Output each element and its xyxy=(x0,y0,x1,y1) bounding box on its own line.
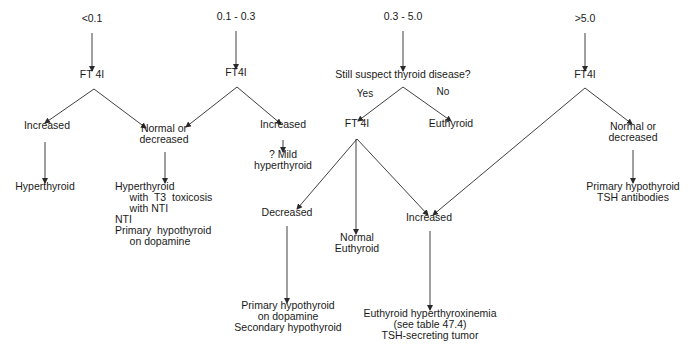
node-text-line: Secondary hypothyroid xyxy=(234,322,341,333)
node-c-ft4i: FT 4I xyxy=(345,118,369,129)
node-text-line: FT4I xyxy=(225,67,247,78)
node-text-line: hyperthyroid xyxy=(254,160,312,171)
node-text-line: FT 4I xyxy=(345,118,369,129)
node-tsh-01-03: 0.1 - 0.3 xyxy=(217,11,256,22)
node-suspect: Still suspect thyroid disease? xyxy=(335,69,470,80)
node-a-increased: Increased xyxy=(24,120,70,131)
node-text-line: 0.1 - 0.3 xyxy=(217,11,256,22)
arrow-edge xyxy=(433,88,585,215)
connector-lines xyxy=(0,0,692,349)
node-no-label: No xyxy=(437,86,450,97)
arrow-edge xyxy=(357,139,428,215)
node-text-line: Increased xyxy=(24,120,70,131)
node-text-line: FT4I xyxy=(574,69,596,80)
node-text-line: TSH antibodies xyxy=(586,192,679,203)
node-text-line: Euthyroid xyxy=(335,243,379,254)
node-text-line: >5.0 xyxy=(575,13,596,24)
node-text-line: FT 4I xyxy=(80,69,104,80)
node-b-increased: Increased xyxy=(260,119,306,130)
node-c-dec-result: Primary hypothyroidon dopamineSecondary … xyxy=(234,300,341,333)
node-text-line: 0.3 - 5.0 xyxy=(384,11,423,22)
node-text-line: on dopamine xyxy=(115,236,212,247)
node-text-line: TSH-secreting tumor xyxy=(363,330,496,341)
node-text-line: <0.1 xyxy=(82,13,103,24)
node-a-normal: Normal ordecreased xyxy=(139,123,188,145)
node-c-increased: Increased xyxy=(406,212,452,223)
node-text-line: Yes xyxy=(357,88,373,99)
node-c-decreased: Decreased xyxy=(262,207,313,218)
node-text-line: Hyperthyroid xyxy=(15,181,75,192)
node-b-mild: ? Mildhyperthyroid xyxy=(254,149,312,171)
node-text-line: Increased xyxy=(260,119,306,130)
node-tsh-gt50: >5.0 xyxy=(575,13,596,24)
node-tsh-lt01: <0.1 xyxy=(82,13,103,24)
node-text-line: No xyxy=(437,86,450,97)
arrow-edge xyxy=(94,89,146,128)
node-c-normal: NormalEuthyroid xyxy=(335,232,379,254)
arrow-edge xyxy=(186,87,237,127)
arrow-edge xyxy=(585,88,632,124)
node-text-line: Still suspect thyroid disease? xyxy=(335,69,470,80)
node-d-result: Primary hypothyroidTSH antibodies xyxy=(586,181,679,203)
node-text-line: Decreased xyxy=(262,207,313,218)
node-text-line: Euthyroid xyxy=(429,118,473,129)
node-c-euthyroid: Euthyroid xyxy=(429,118,473,129)
node-yes-label: Yes xyxy=(357,88,373,99)
node-ft4i-a: FT 4I xyxy=(80,69,104,80)
node-tsh-03-50: 0.3 - 5.0 xyxy=(384,11,423,22)
arrow-edge xyxy=(45,89,94,123)
node-d-normal: Normal ordecreased xyxy=(608,121,657,143)
node-a-hyper: Hyperthyroid xyxy=(15,181,75,192)
node-a-list: Hyperthyroid with T3 toxicosis with NTIN… xyxy=(115,181,212,247)
node-ft4i-b: FT4I xyxy=(225,67,247,78)
node-ft4i-d: FT4I xyxy=(574,69,596,80)
node-text-line: Increased xyxy=(406,212,452,223)
node-text-line: decreased xyxy=(139,134,188,145)
flowchart-canvas: <0.10.1 - 0.30.3 - 5.0>5.0FT 4IFT4IStill… xyxy=(0,0,692,349)
node-c-inc-result: Euthyroid hyperthyroxinemia(see table 47… xyxy=(363,308,496,341)
node-text-line: decreased xyxy=(608,132,657,143)
